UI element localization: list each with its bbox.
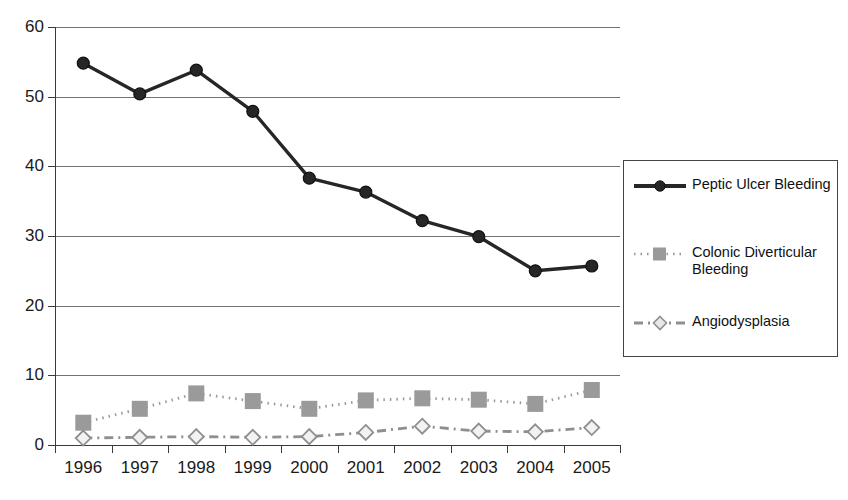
- series-line: [83, 426, 592, 438]
- x-axis-tick: [112, 445, 113, 453]
- series-peptic-ulcer-bleeding: [77, 57, 598, 277]
- series-angiodysplasia: [76, 419, 600, 446]
- x-axis-tick: [55, 445, 56, 453]
- data-point-marker: [471, 424, 486, 439]
- data-point-marker: [75, 415, 91, 431]
- legend-label: Angiodysplasia: [688, 313, 790, 330]
- data-point-marker: [189, 429, 204, 444]
- solid-circle-key-icon: [632, 177, 688, 195]
- data-point-marker: [77, 57, 89, 69]
- y-axis-tick-label: 40: [0, 157, 44, 174]
- data-point-marker: [527, 396, 543, 412]
- series-line: [83, 390, 592, 423]
- dashed-diamond-key-icon: [632, 314, 688, 332]
- data-point-marker: [529, 265, 541, 277]
- x-axis-tick: [281, 445, 282, 453]
- chart-legend: Peptic Ulcer Bleeding Colonic Diverticul…: [623, 160, 838, 357]
- x-axis-line: [55, 445, 621, 446]
- y-axis-tick-label: 0: [0, 436, 44, 453]
- data-point-marker: [358, 392, 374, 408]
- x-axis-tick: [338, 445, 339, 453]
- x-axis-tick: [394, 445, 395, 453]
- data-point-marker: [360, 186, 372, 198]
- y-axis-tick-label: 30: [0, 227, 44, 244]
- data-point-marker: [134, 88, 146, 100]
- legend-item-colonic-diverticular-bleeding[interactable]: Colonic Diverticular Bleeding: [632, 244, 832, 278]
- y-axis-tick-label: 20: [0, 297, 44, 314]
- gridline: [55, 306, 620, 307]
- gridline: [55, 375, 620, 376]
- chart-figure: 0102030405060 19961997199819992000200120…: [0, 0, 848, 500]
- x-axis-tick-label: 2005: [557, 459, 627, 477]
- data-point-marker: [415, 419, 430, 434]
- legend-label: Colonic Diverticular Bleeding: [688, 244, 832, 278]
- data-point-marker: [584, 382, 600, 398]
- x-axis-tick: [168, 445, 169, 453]
- series-line: [83, 63, 592, 271]
- data-point-marker: [190, 64, 202, 76]
- y-axis-tick-label: 10: [0, 366, 44, 383]
- data-point-marker: [245, 430, 260, 445]
- legend-label: Peptic Ulcer Bleeding: [688, 176, 831, 193]
- legend-item-angiodysplasia[interactable]: Angiodysplasia: [632, 313, 832, 332]
- y-axis-tick-label: 50: [0, 88, 44, 105]
- gridline: [55, 236, 620, 237]
- y-axis-tick-label: 60: [0, 18, 44, 35]
- series-colonic-diverticular-bleeding: [75, 382, 600, 431]
- data-point-marker: [303, 172, 315, 184]
- data-point-marker: [132, 430, 147, 445]
- data-point-marker: [414, 390, 430, 406]
- x-axis-tick: [507, 445, 508, 453]
- x-axis-tick: [451, 445, 452, 453]
- data-point-marker: [586, 260, 598, 272]
- x-axis-tick: [225, 445, 226, 453]
- data-point-marker: [358, 425, 373, 440]
- data-point-marker: [188, 385, 204, 401]
- data-point-marker: [528, 424, 543, 439]
- x-axis-tick: [564, 445, 565, 453]
- gridline: [55, 27, 620, 28]
- x-axis-tick: [620, 445, 621, 453]
- dotted-square-key-icon: [632, 245, 688, 263]
- data-point-marker: [245, 393, 261, 409]
- gridline: [55, 166, 620, 167]
- data-point-marker: [584, 420, 599, 435]
- data-point-marker: [76, 431, 91, 446]
- gridline: [55, 97, 620, 98]
- data-point-marker: [132, 401, 148, 417]
- data-point-marker: [416, 215, 428, 227]
- data-point-marker: [301, 401, 317, 417]
- data-point-marker: [302, 429, 317, 444]
- data-point-marker: [471, 392, 487, 408]
- data-point-marker: [247, 105, 259, 117]
- y-axis-line: [55, 27, 56, 446]
- legend-item-peptic-ulcer-bleeding[interactable]: Peptic Ulcer Bleeding: [632, 176, 832, 195]
